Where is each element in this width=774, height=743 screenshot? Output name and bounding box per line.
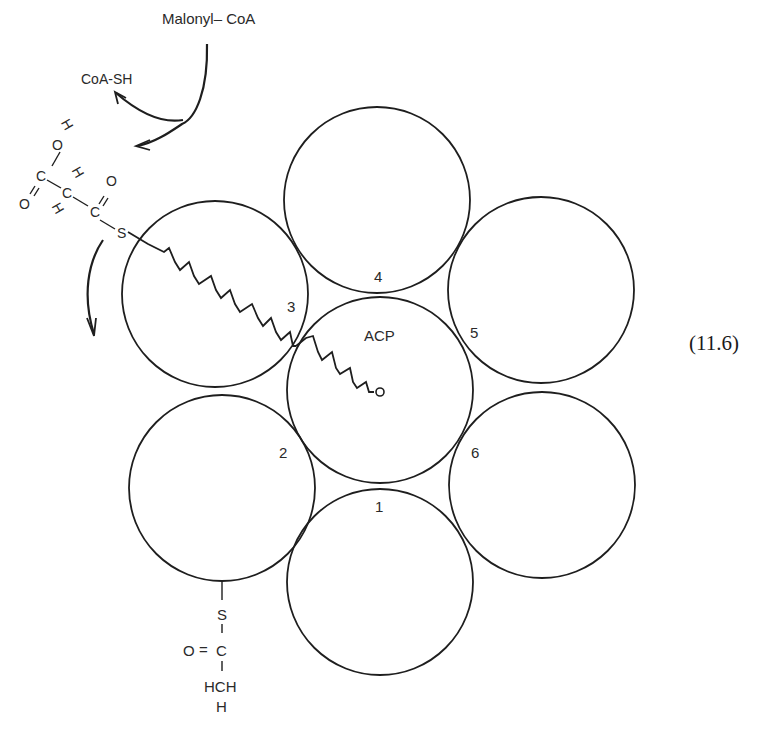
- bond: [99, 196, 104, 204]
- malonyl-group-structure: H O C O H C H C O S: [19, 116, 126, 241]
- bond: [73, 197, 88, 206]
- enzyme-domains: [122, 107, 635, 675]
- malonyl-coa-label: Malonyl– CoA: [162, 10, 255, 27]
- acp-arm-terminal-icon: [376, 388, 384, 396]
- acp-label: ACP: [364, 327, 395, 344]
- atom-s: S: [117, 225, 126, 241]
- atom-c-carboxyl: C: [36, 168, 46, 184]
- equation-number: (11.6): [689, 331, 739, 355]
- malonyl-bonds: [30, 152, 115, 229]
- bond: [52, 152, 60, 166]
- atom-hch: HCH: [204, 678, 237, 695]
- atom-h-lower: H: [49, 200, 68, 217]
- domain-bottom: [287, 489, 473, 675]
- atom-o-hydroxyl: O: [52, 137, 63, 153]
- arrowheads: [115, 92, 150, 150]
- domain-center-acp: [287, 297, 473, 483]
- subunit-label-5: 5: [470, 324, 478, 341]
- subunit-label-1: 1: [375, 498, 383, 515]
- acp-arm: [296, 336, 374, 392]
- subunit-label-4: 4: [374, 268, 382, 285]
- atom-h-bottom: H: [216, 698, 227, 715]
- bond: [103, 198, 108, 206]
- acetyl-group-structure: S O = C HCH H: [183, 581, 237, 715]
- malonyl-transfer-arrows: [116, 44, 207, 146]
- fatty-acid-synthase-diagram: 1 2 3 4 5 6 ACP Malonyl– CoA CoA-SH H O …: [0, 0, 774, 743]
- coa-sh-label: CoA-SH: [81, 71, 132, 87]
- atom-c-acetyl: C: [216, 642, 227, 659]
- domain-upper-right: [448, 197, 634, 383]
- atom-s-acetyl: S: [217, 606, 227, 623]
- atom-c-methylene: C: [62, 185, 72, 201]
- main-arrow-path: [138, 44, 207, 146]
- domain-top: [284, 107, 470, 293]
- atom-o-thioester: O: [106, 173, 117, 189]
- atom-h-upper: H: [69, 164, 88, 181]
- subunit-label-2: 2: [279, 444, 287, 461]
- atom-c-thioester: C: [90, 204, 100, 220]
- bond: [34, 188, 39, 196]
- domain-lower-right: [449, 392, 635, 578]
- subunit-label-3: 3: [287, 298, 295, 315]
- domain-lower-left: [129, 395, 315, 581]
- bond: [47, 180, 61, 188]
- atom-o-acetyl: O: [183, 642, 195, 659]
- rotation-arrow: [87, 240, 103, 336]
- atom-h-top: H: [58, 116, 77, 133]
- bond: [100, 220, 115, 229]
- domain-upper-left: [122, 201, 308, 387]
- bond: [30, 186, 35, 194]
- double-bond: =: [199, 641, 208, 658]
- phosphopantetheine-arm-long: [128, 232, 296, 346]
- atom-o-carboxyl: O: [19, 196, 30, 212]
- subunit-label-6: 6: [471, 444, 479, 461]
